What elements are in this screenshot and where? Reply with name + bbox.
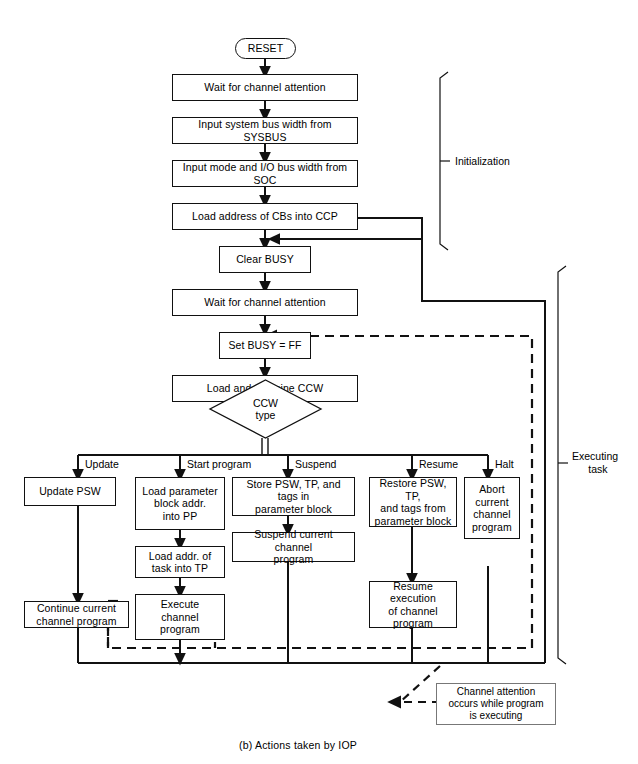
branch-label-suspend-text: Suspend bbox=[295, 458, 336, 470]
node-clear-busy[interactable]: Clear BUSY bbox=[219, 246, 311, 273]
node-restore-psw-tp-tags-line3: parameter block bbox=[375, 515, 452, 528]
branch-label-resume: Resume bbox=[419, 458, 458, 470]
node-load-task-addr-tp-line1: Load addr. of bbox=[149, 550, 212, 563]
decision-ccw-type[interactable]: CCW type bbox=[208, 378, 323, 440]
node-load-parameter-block-addr-line1: Load parameter bbox=[142, 485, 218, 498]
branch-label-halt: Halt bbox=[495, 458, 514, 470]
node-execute-channel-program-line3: program bbox=[160, 623, 200, 636]
node-continue-channel-program-line1: Continue current bbox=[37, 602, 116, 615]
node-restore-psw-tp-tags-line1: Restore PSW, TP, bbox=[373, 477, 453, 502]
node-execute-channel-program-line2: channel bbox=[161, 611, 198, 624]
bracket-executing-task bbox=[558, 266, 566, 664]
bracket-label-executing-task-line2: task bbox=[572, 463, 624, 476]
branch-label-halt-text: Halt bbox=[495, 458, 514, 470]
flowchart-figure: RESET Wait for channel attention Input s… bbox=[0, 0, 638, 764]
node-reset[interactable]: RESET bbox=[235, 38, 296, 59]
node-wait-channel-attention-2-label: Wait for channel attention bbox=[204, 296, 325, 309]
bracket-label-initialization-text: Initialization bbox=[455, 155, 510, 167]
note-channel-attention: Channel attention occurs while program i… bbox=[436, 683, 556, 725]
node-execute-channel-program[interactable]: Execute channel program bbox=[135, 594, 225, 640]
node-wait-channel-attention-1[interactable]: Wait for channel attention bbox=[172, 74, 358, 101]
node-set-busy-ff-label: Set BUSY = FF bbox=[228, 339, 301, 352]
note-channel-attention-line3: is executing bbox=[470, 710, 523, 722]
branch-label-start-program-text: Start program bbox=[187, 458, 251, 470]
node-wait-channel-attention-1-label: Wait for channel attention bbox=[204, 81, 325, 94]
decision-ccw-type-label-line1: CCW bbox=[253, 397, 278, 409]
branch-label-resume-text: Resume bbox=[419, 458, 458, 470]
node-suspend-current-channel-program[interactable]: Suspend current channel program bbox=[232, 532, 355, 562]
node-load-address-cbs-label: Load address of CBs into CCP bbox=[192, 210, 338, 223]
note-channel-attention-line2: occurs while program bbox=[448, 698, 543, 710]
node-load-parameter-block-addr-line3: into PP bbox=[163, 510, 198, 523]
node-resume-execution-line3: program bbox=[393, 617, 433, 630]
note-channel-attention-line1: Channel attention bbox=[457, 686, 535, 698]
node-update-psw-label: Update PSW bbox=[39, 485, 101, 498]
node-suspend-current-channel-program-line1: Suspend current channel bbox=[236, 528, 351, 553]
branch-label-update: Update bbox=[85, 458, 119, 470]
branch-label-suspend: Suspend bbox=[295, 458, 336, 470]
node-suspend-current-channel-program-line2: program bbox=[274, 553, 314, 566]
node-load-parameter-block-addr-line2: block addr. bbox=[154, 497, 206, 510]
bracket-label-executing-task-line1: Executing bbox=[572, 450, 632, 463]
node-store-psw-tp-tags-line1: Store PSW, TP, and tags in bbox=[236, 478, 351, 503]
node-set-busy-ff[interactable]: Set BUSY = FF bbox=[219, 332, 311, 359]
node-restore-psw-tp-tags[interactable]: Restore PSW, TP, and tags from parameter… bbox=[369, 477, 457, 527]
node-abort-current-channel-program[interactable]: Abort current channel program bbox=[464, 477, 520, 539]
node-input-system-bus-width-label: Input system bus width from SYSBUS bbox=[176, 118, 354, 143]
node-load-parameter-block-addr[interactable]: Load parameter block addr. into PP bbox=[135, 477, 225, 530]
node-abort-line4: program bbox=[472, 521, 512, 534]
bracket-label-executing-task: Executing task bbox=[572, 450, 632, 475]
figure-caption-text: (b) Actions taken by IOP bbox=[239, 739, 357, 751]
node-clear-busy-label: Clear BUSY bbox=[236, 253, 294, 266]
node-resume-execution-channel-program[interactable]: Resume execution of channel program bbox=[369, 581, 457, 628]
node-input-mode-io-bus-width[interactable]: Input mode and I/O bus width from SOC bbox=[172, 160, 358, 187]
branch-label-start-program: Start program bbox=[187, 458, 251, 470]
node-load-address-cbs[interactable]: Load address of CBs into CCP bbox=[172, 203, 358, 230]
node-abort-line1: Abort bbox=[479, 483, 505, 496]
node-wait-channel-attention-2[interactable]: Wait for channel attention bbox=[172, 289, 358, 316]
node-execute-channel-program-line1: Execute bbox=[161, 598, 200, 611]
node-resume-execution-line2: of channel bbox=[388, 605, 437, 618]
figure-caption: (b) Actions taken by IOP bbox=[239, 739, 357, 751]
node-restore-psw-tp-tags-line2: and tags from bbox=[380, 502, 446, 515]
node-load-task-addr-tp[interactable]: Load addr. of task into TP bbox=[135, 546, 225, 578]
node-abort-line3: channel bbox=[473, 508, 510, 521]
branch-label-update-text: Update bbox=[85, 458, 119, 470]
decision-ccw-type-label-line2: type bbox=[256, 409, 276, 421]
node-input-system-bus-width[interactable]: Input system bus width from SYSBUS bbox=[172, 117, 358, 144]
node-abort-line2: current bbox=[475, 496, 508, 509]
bracket-label-initialization: Initialization bbox=[455, 155, 510, 168]
node-update-psw[interactable]: Update PSW bbox=[24, 477, 116, 506]
node-continue-channel-program-line2: channel program bbox=[36, 615, 116, 628]
node-input-mode-io-bus-width-label: Input mode and I/O bus width from SOC bbox=[176, 161, 354, 186]
node-reset-label: RESET bbox=[248, 42, 284, 55]
node-store-psw-tp-tags-line2: parameter block bbox=[255, 503, 332, 516]
node-load-task-addr-tp-line2: task into TP bbox=[152, 562, 208, 575]
node-store-psw-tp-tags[interactable]: Store PSW, TP, and tags in parameter blo… bbox=[232, 477, 355, 516]
node-continue-channel-program[interactable]: Continue current channel program bbox=[24, 601, 129, 628]
node-resume-execution-line1: Resume execution bbox=[373, 580, 453, 605]
dashed-note-leader-upper bbox=[400, 666, 440, 702]
